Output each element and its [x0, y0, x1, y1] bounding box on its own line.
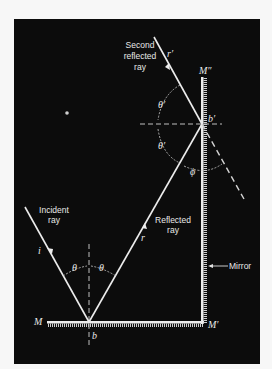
incident-label-2: ray [48, 215, 61, 225]
mirror-label: Mirror [229, 261, 251, 271]
label-r-prime: r′ [167, 48, 174, 59]
label-r: r [141, 232, 145, 243]
label-theta-left: θ [72, 262, 77, 273]
label-theta-prime-upper: θ′ [158, 99, 166, 110]
dot-marker [65, 111, 69, 115]
label-b-prime: b′ [208, 113, 216, 124]
label-phi: ϕ [190, 166, 195, 177]
incident-label-1: Incident [39, 205, 69, 215]
label-i: i [38, 245, 41, 256]
label-M-double-prime: M″ [198, 65, 212, 76]
label-M: M [33, 316, 43, 327]
reflected-label-2: ray [167, 225, 180, 235]
reflected-ray-extension [202, 124, 244, 199]
reflected-arrow-icon [142, 223, 147, 229]
mirror-pointer-arrow-icon [208, 264, 213, 268]
label-M-prime: M′ [207, 319, 219, 330]
second-reflected-label-3: ray [134, 62, 147, 72]
second-reflected-ray [154, 37, 202, 124]
reflected-label-1: Reflected [155, 215, 191, 225]
label-theta-right: θ [99, 262, 104, 273]
horizontal-mirror [47, 321, 204, 327]
second-reflected-label-1: Second [126, 40, 155, 50]
reflection-diagram: Second reflected ray Incident ray Reflec… [0, 0, 272, 369]
label-theta-prime-lower: θ′ [158, 140, 166, 151]
label-b: b [92, 330, 97, 341]
second-reflected-label-2: reflected [124, 51, 157, 61]
vertical-mirror [201, 77, 207, 324]
